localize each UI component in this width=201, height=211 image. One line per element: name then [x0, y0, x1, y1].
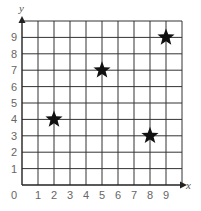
- x-tick-label: 3: [67, 189, 73, 201]
- y-tick-label: 6: [11, 81, 17, 93]
- y-tick-label: 7: [11, 64, 17, 76]
- x-tick-label: 9: [163, 189, 169, 201]
- x-tick-label: 6: [115, 189, 121, 201]
- y-tick-label: 9: [11, 31, 17, 43]
- x-tick-label: 5: [99, 189, 105, 201]
- x-tick-label: 2: [51, 189, 57, 201]
- y-axis-arrow-icon: [19, 16, 26, 23]
- y-tick-label: 4: [11, 113, 17, 125]
- y-tick-label: 1: [11, 163, 17, 175]
- x-axis-label: x: [185, 179, 191, 191]
- y-tick-label: 2: [11, 146, 17, 158]
- x-tick-label: 8: [147, 189, 153, 201]
- y-tick-label: 3: [11, 130, 17, 142]
- grid-lines: [22, 21, 182, 185]
- y-tick-label: 8: [11, 48, 17, 60]
- coordinate-grid-chart: 0123456789123456789 x y: [0, 0, 201, 211]
- star-markers: [45, 28, 174, 143]
- x-tick-label: 4: [83, 189, 89, 201]
- x-tick-label: 1: [35, 189, 41, 201]
- x-tick-label: 0: [11, 189, 17, 201]
- y-axis-label: y: [18, 2, 24, 14]
- tick-labels: 0123456789123456789: [11, 31, 169, 201]
- y-tick-label: 5: [11, 97, 17, 109]
- x-tick-label: 7: [131, 189, 137, 201]
